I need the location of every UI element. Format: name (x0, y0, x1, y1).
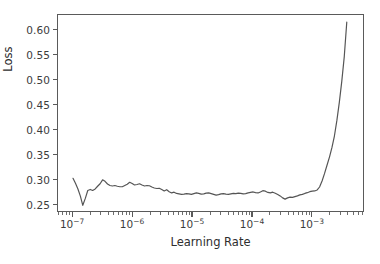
x-tick-mark-minor (347, 212, 348, 215)
x-tick-mark-minor (113, 212, 114, 215)
y-tick-mark (53, 129, 57, 130)
y-tick-label: 0.55 (26, 49, 50, 61)
y-tick-label: 0.25 (26, 199, 50, 211)
y-tick-mark (53, 179, 57, 180)
x-tick-mark-minor (90, 212, 91, 215)
x-tick-mark-minor (210, 212, 211, 215)
y-tick-label: 0.35 (26, 149, 50, 161)
x-tick-mark-minor (309, 212, 310, 215)
x-tick-label: 10−3 (300, 218, 324, 230)
x-tick-mark-minor (122, 212, 123, 215)
x-tick-mark-minor (66, 212, 67, 215)
x-tick-mark-minor (353, 212, 354, 215)
x-tick-mark-minor (302, 212, 303, 215)
plot-area (57, 14, 364, 212)
x-tick-mark-minor (189, 212, 190, 215)
y-tick-label: 0.60 (26, 24, 50, 36)
y-tick-mark (53, 104, 57, 105)
x-axis-label: Learning Rate (57, 235, 364, 249)
x-tick-mark-minor (129, 212, 130, 215)
x-tick-mark-minor (340, 212, 341, 215)
x-tick-mark-minor (329, 212, 330, 215)
x-tick-label: 10−5 (180, 218, 204, 230)
x-tick-mark-minor (160, 212, 161, 215)
x-tick-mark-minor (58, 212, 59, 215)
x-tick-mark-minor (242, 212, 243, 215)
learning-rate-finder-chart: Loss 0.250.300.350.400.450.500.550.60 10… (0, 0, 380, 264)
x-tick-mark-minor (126, 212, 127, 215)
x-tick-mark-minor (62, 212, 63, 215)
x-tick-mark-minor (186, 212, 187, 215)
x-tick-label: 10−4 (240, 218, 264, 230)
x-tick-mark-minor (358, 212, 359, 215)
x-tick-label: 10−6 (120, 218, 144, 230)
x-tick-mark-minor (288, 212, 289, 215)
x-tick-mark-minor (69, 212, 70, 215)
x-tick-mark-minor (293, 212, 294, 215)
y-tick-label: 0.45 (26, 99, 50, 111)
loss-curve-svg (58, 15, 363, 211)
loss-curve-line (73, 22, 347, 205)
x-tick-mark-minor (173, 212, 174, 215)
y-tick-mark (53, 154, 57, 155)
x-tick-mark-minor (246, 212, 247, 215)
x-tick-mark-minor (280, 212, 281, 215)
x-tick-mark-minor (182, 212, 183, 215)
x-tick-mark-minor (249, 212, 250, 215)
y-tick-mark (53, 79, 57, 80)
x-tick-mark-minor (238, 212, 239, 215)
x-tick-mark-minor (108, 212, 109, 215)
x-tick-mark-minor (150, 212, 151, 215)
y-tick-mark (53, 204, 57, 205)
x-tick-mark-minor (269, 212, 270, 215)
y-tick-label: 0.40 (26, 124, 50, 136)
y-axis-tick-labels: 0.250.300.350.400.450.500.550.60 (0, 0, 50, 264)
y-tick-label: 0.30 (26, 174, 50, 186)
x-tick-mark-minor (306, 212, 307, 215)
y-tick-label: 0.50 (26, 74, 50, 86)
x-tick-mark-minor (178, 212, 179, 215)
x-tick-mark-minor (233, 212, 234, 215)
y-tick-mark (53, 54, 57, 55)
x-tick-label: 10−7 (60, 218, 84, 230)
x-tick-mark-minor (220, 212, 221, 215)
x-tick-mark-minor (298, 212, 299, 215)
x-tick-mark-minor (168, 212, 169, 215)
x-tick-mark-minor (362, 212, 363, 215)
x-tick-mark-minor (228, 212, 229, 215)
x-tick-mark-minor (100, 212, 101, 215)
x-tick-mark-minor (118, 212, 119, 215)
y-tick-mark (53, 29, 57, 30)
